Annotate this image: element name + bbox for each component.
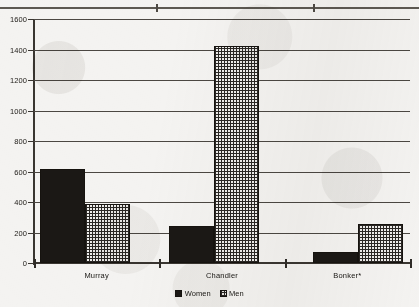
legend-label-women: Women: [185, 289, 211, 298]
category-label-murray: Murray: [34, 271, 159, 280]
category-label-bonker: Bonker*: [285, 271, 410, 280]
chart-legend: WomenMen: [0, 289, 419, 298]
y-axis-label-1200: 1200: [0, 76, 27, 85]
bar-chart: 02004006008001000120014001600 MurrayChan…: [0, 0, 419, 307]
y-axis-labels: 02004006008001000120014001600: [0, 0, 27, 307]
y-axis-label-800: 800: [0, 137, 27, 146]
y-axis-label-600: 600: [0, 167, 27, 176]
bar-murray-men: [85, 204, 130, 263]
legend-label-men: Men: [229, 289, 244, 298]
category-boundary-tick-1: [159, 259, 161, 268]
bar-murray-women: [40, 169, 85, 263]
legend-item-women: Women: [175, 289, 210, 298]
bar-bonker-men: [358, 224, 403, 263]
y-axis-label-400: 400: [0, 198, 27, 207]
hatched-swatch-icon: [220, 290, 227, 297]
y-axis-label-1400: 1400: [0, 45, 27, 54]
bar-chandler-women: [169, 226, 214, 263]
category-boundary-tick-0: [34, 259, 36, 268]
solid-swatch-icon: [175, 290, 182, 297]
bar-bonker-women: [313, 252, 358, 263]
y-axis-label-0: 0: [0, 259, 27, 268]
bar-chandler-men: [214, 46, 259, 263]
category-label-chandler: Chandler: [159, 271, 284, 280]
plot-area: [34, 19, 410, 263]
y-axis-label-1000: 1000: [0, 106, 27, 115]
y-axis-label-200: 200: [0, 228, 27, 237]
y-axis-label-1600: 1600: [0, 15, 27, 24]
category-boundary-tick-2: [285, 259, 287, 268]
category-boundary-tick-3: [410, 259, 412, 268]
legend-item-men: Men: [220, 289, 244, 298]
